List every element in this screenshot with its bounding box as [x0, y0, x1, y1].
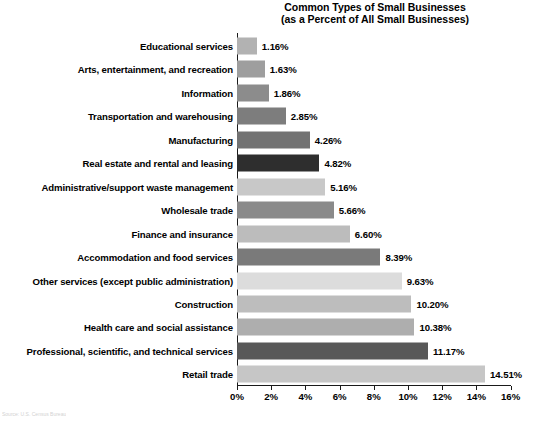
bar-row: Retail trade14.51% — [0, 362, 550, 386]
x-axis-tick-label: 4% — [298, 391, 312, 402]
bar-row: Real estate and rental and leasing4.82% — [0, 151, 550, 175]
x-axis-tick-label: 2% — [264, 391, 278, 402]
x-axis-tick — [374, 386, 375, 390]
bar-value-label: 11.17% — [433, 345, 464, 356]
bar — [237, 38, 257, 55]
category-label: Educational services — [140, 41, 233, 52]
bar — [237, 155, 319, 172]
bar — [237, 342, 428, 359]
bar-value-label: 4.82% — [324, 158, 351, 169]
bar-value-label: 10.38% — [419, 322, 451, 333]
bar-value-label: 2.85% — [291, 111, 318, 122]
bar-row: Information1.86% — [0, 81, 550, 105]
bar — [237, 84, 269, 101]
x-axis-tick-label: 6% — [333, 391, 347, 402]
bar-value-label: 14.51% — [490, 369, 522, 380]
bar-row: Wholesale trade5.66% — [0, 198, 550, 222]
category-label: Real estate and rental and leasing — [82, 158, 233, 169]
x-axis-tick-label: 16% — [501, 391, 520, 402]
chart-container: Common Types of Small Businesses (as a P… — [0, 0, 550, 421]
bar-value-label: 5.66% — [339, 205, 366, 216]
bar — [237, 108, 286, 125]
x-axis-tick — [476, 386, 477, 390]
bar — [237, 178, 325, 195]
category-label: Health care and social assistance — [84, 322, 233, 333]
x-axis-tick-label: 8% — [367, 391, 381, 402]
x-axis-tick — [237, 386, 238, 390]
bar — [237, 61, 265, 78]
bar-value-label: 1.16% — [262, 41, 289, 52]
category-label: Professional, scientific, and technical … — [27, 345, 233, 356]
category-label: Information — [182, 87, 233, 98]
bar — [237, 366, 485, 383]
bar — [237, 225, 350, 242]
category-label: Other services (except public administra… — [33, 275, 233, 286]
bar — [237, 295, 411, 312]
category-label: Administrative/support waste management — [41, 181, 233, 192]
x-axis-tick — [271, 386, 272, 390]
bar-value-label: 9.63% — [407, 275, 434, 286]
x-axis-tick — [442, 386, 443, 390]
source-note: Source: U.S. Census Bureau — [2, 411, 66, 418]
x-axis-tick — [408, 386, 409, 390]
bar-row: Transportation and warehousing2.85% — [0, 104, 550, 128]
bar — [237, 272, 402, 289]
category-label: Finance and insurance — [132, 228, 233, 239]
category-label: Manufacturing — [168, 134, 233, 145]
bar-value-label: 1.63% — [270, 64, 297, 75]
bar-row: Construction10.20% — [0, 292, 550, 316]
category-label: Transportation and warehousing — [88, 111, 233, 122]
bar-row: Arts, entertainment, and recreation1.63% — [0, 57, 550, 81]
bar-row: Manufacturing4.26% — [0, 128, 550, 152]
bar — [237, 202, 334, 219]
bar-row: Professional, scientific, and technical … — [0, 339, 550, 363]
bar-row: Finance and insurance6.60% — [0, 222, 550, 246]
x-axis-tick-label: 10% — [398, 391, 417, 402]
bar-value-label: 10.20% — [416, 298, 448, 309]
x-axis-tick — [305, 386, 306, 390]
bar — [237, 319, 414, 336]
x-axis-tick — [511, 386, 512, 390]
x-axis-tick-label: 12% — [433, 391, 452, 402]
x-axis-tick-label: 14% — [467, 391, 486, 402]
category-label: Wholesale trade — [161, 205, 233, 216]
bar — [237, 249, 380, 266]
bar-row: Health care and social assistance10.38% — [0, 315, 550, 339]
x-axis-tick — [340, 386, 341, 390]
bar — [237, 131, 310, 148]
bar-row: Administrative/support waste management5… — [0, 175, 550, 199]
bar-row: Accommodation and food services8.39% — [0, 245, 550, 269]
bar-row: Educational services1.16% — [0, 34, 550, 58]
bar-row: Other services (except public administra… — [0, 269, 550, 293]
category-label: Construction — [175, 298, 233, 309]
category-label: Retail trade — [182, 369, 233, 380]
x-axis-tick-label: 0% — [230, 391, 244, 402]
bar-value-label: 5.16% — [330, 181, 357, 192]
plot-area: Educational services1.16%Arts, entertain… — [0, 0, 550, 421]
bar-value-label: 1.86% — [274, 87, 301, 98]
bar-value-label: 8.39% — [385, 252, 412, 263]
category-label: Arts, entertainment, and recreation — [78, 64, 233, 75]
bar-value-label: 6.60% — [355, 228, 382, 239]
bar-value-label: 4.26% — [315, 134, 342, 145]
category-label: Accommodation and food services — [77, 252, 233, 263]
